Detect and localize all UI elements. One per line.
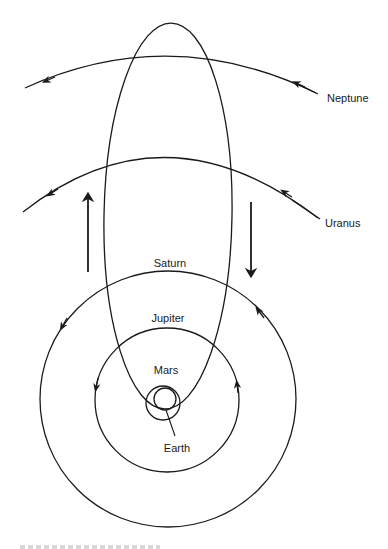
- uranus-leader: [292, 200, 320, 219]
- comet-orbit-diagram: Neptune Uranus Saturn Jupiter Mars Earth: [0, 0, 388, 549]
- label-earth: Earth: [164, 442, 190, 454]
- label-mars: Mars: [154, 364, 179, 376]
- label-saturn: Saturn: [154, 257, 186, 269]
- earth-leader: [166, 410, 175, 436]
- neptune-leader: [296, 83, 318, 94]
- figure-caption-cropped: [20, 545, 160, 549]
- label-neptune: Neptune: [327, 92, 369, 104]
- neptune-orbit: [25, 56, 316, 93]
- earth-orbit: [154, 388, 176, 410]
- label-jupiter: Jupiter: [151, 312, 184, 324]
- saturn-orbit: [40, 271, 296, 527]
- uranus-orbit: [23, 157, 318, 218]
- comet-orbit: [101, 22, 236, 410]
- label-uranus: Uranus: [325, 217, 361, 229]
